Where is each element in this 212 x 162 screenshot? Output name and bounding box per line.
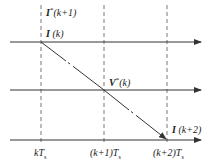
label-i-ref-k1: I*(k+1) (46, 7, 76, 18)
timing-diagram: I*(k+1) I (k) V*(k) I (k+2) kTs (k+1)Ts … (0, 0, 212, 162)
tick-sub: s (181, 154, 183, 160)
tick-prefix: (k+2) (153, 147, 176, 158)
diagonal-segment-1 (41, 42, 104, 90)
argument-k-plus-2: (k+2) (176, 124, 201, 135)
argument-k: (k) (50, 28, 64, 39)
label-i-k2: I (k+2) (172, 125, 201, 135)
label-i-k: I (k) (46, 29, 64, 39)
symbol-v: V (109, 77, 116, 88)
diagram-canvas (0, 0, 212, 162)
argument-k-plus-1: (k+1) (53, 7, 76, 18)
argument-k: (k) (119, 77, 130, 88)
tick-sub: s (118, 154, 120, 160)
tick-label-k1ts: (k+1)Ts (90, 148, 121, 160)
tick-prefix: (k+1) (90, 147, 113, 158)
tick-sub: s (44, 154, 46, 160)
tick-label-kts: kTs (34, 148, 46, 160)
diagonal-segment-2 (104, 90, 166, 139)
tick-label-k2ts: (k+2)Ts (153, 148, 184, 160)
label-v-ref-k: V*(k) (109, 77, 130, 88)
